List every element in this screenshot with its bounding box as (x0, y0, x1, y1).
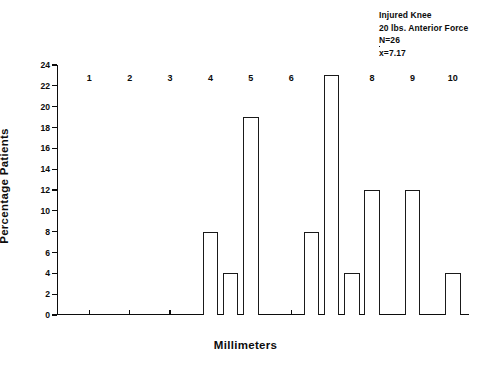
y-axis-title: Percentage Patients (0, 128, 10, 244)
y-axis-tick-label: 20 (40, 102, 50, 111)
annotation-line-sample-size: N=26 (379, 34, 468, 47)
x-axis-tick-label: 1 (87, 74, 92, 83)
y-axis-tick (52, 210, 57, 211)
x-axis-tick-label: 6 (289, 74, 294, 83)
x-axis-tick (291, 310, 292, 315)
y-axis-tick (52, 64, 57, 65)
y-axis-tick (52, 294, 57, 295)
y-axis-tick-label: 0 (45, 311, 50, 320)
y-axis-tick (52, 231, 57, 232)
annotation-line-force: 20 lbs. Anterior Force (379, 22, 468, 35)
bar (405, 190, 420, 315)
bar (243, 117, 258, 315)
x-axis-tick (89, 310, 90, 315)
y-axis-tick (52, 106, 57, 107)
bar (304, 232, 319, 315)
y-axis-tick-label: 12 (40, 186, 50, 195)
y-axis-tick-label: 18 (40, 123, 50, 132)
bar (223, 273, 238, 315)
x-bar-symbol: x (379, 47, 384, 60)
y-axis-tick-label: 10 (40, 207, 50, 216)
x-axis-tick-label: 2 (127, 74, 132, 83)
bar (344, 273, 359, 315)
x-axis-tick-label: 10 (448, 74, 458, 83)
x-axis-tick (169, 310, 170, 315)
x-axis-tick-label: 8 (370, 74, 375, 83)
bar-chart: Injured Knee 20 lbs. Anterior Force N=26… (0, 0, 491, 372)
y-axis-line (57, 65, 58, 315)
y-axis-tick-label: 8 (45, 227, 50, 236)
bar (324, 75, 339, 315)
y-axis-tick-label: 22 (40, 82, 50, 91)
plot-area: 02468101214161820222412345678910 (57, 65, 469, 315)
x-axis-tick-label: 4 (208, 74, 213, 83)
annotation-line-title: Injured Knee (379, 9, 468, 22)
y-axis-tick (52, 314, 57, 315)
y-axis-tick-label: 4 (45, 269, 50, 278)
y-axis-tick (52, 148, 57, 149)
x-axis-tick-label: 9 (410, 74, 415, 83)
y-axis-tick-label: 2 (45, 290, 50, 299)
bar (445, 273, 460, 315)
y-axis-tick-label: 6 (45, 248, 50, 257)
y-axis-tick (52, 169, 57, 170)
mean-value: 7.17 (389, 48, 406, 58)
y-axis-tick (52, 252, 57, 253)
y-axis-tick-label: 24 (40, 61, 50, 70)
y-axis-tick (52, 127, 57, 128)
chart-annotation-block: Injured Knee 20 lbs. Anterior Force N=26… (379, 9, 468, 59)
annotation-line-mean: x=7.17 (379, 47, 468, 60)
y-axis-tick-label: 14 (40, 165, 50, 174)
bar (364, 190, 379, 315)
bar (203, 232, 218, 315)
y-axis-tick-label: 16 (40, 144, 50, 153)
x-axis-tick-label: 3 (168, 74, 173, 83)
y-axis-tick (52, 189, 57, 190)
y-axis-tick (52, 273, 57, 274)
x-axis-tick-label: 5 (248, 74, 253, 83)
y-axis-tick (52, 85, 57, 86)
x-axis-tick (129, 310, 130, 315)
x-axis-title: Millimeters (0, 339, 491, 351)
